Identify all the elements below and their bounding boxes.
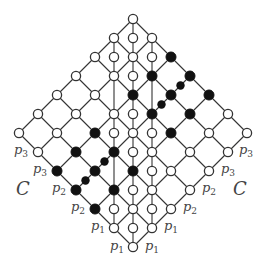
open-node — [147, 147, 156, 156]
point-label: p1 — [164, 218, 178, 235]
open-node — [109, 71, 118, 80]
open-node — [109, 204, 118, 213]
open-node — [147, 166, 156, 175]
open-node — [128, 71, 137, 80]
filled-node — [128, 166, 138, 176]
filled-node — [90, 204, 100, 214]
intermediate-dot — [81, 176, 89, 184]
open-node — [128, 147, 137, 156]
region-label: C — [16, 178, 30, 199]
filled-node — [204, 90, 214, 100]
open-node — [147, 204, 156, 213]
open-node — [33, 109, 42, 118]
lattice-labels: p3p3p2p2p1p1p1p1p2p2p3p3CC — [14, 142, 253, 255]
open-node — [204, 166, 213, 175]
open-node — [109, 109, 118, 118]
open-node — [166, 204, 175, 213]
open-node — [242, 128, 251, 137]
open-node — [128, 185, 137, 194]
open-node — [128, 223, 137, 232]
open-node — [128, 109, 137, 118]
filled-node — [166, 52, 176, 62]
open-node — [223, 109, 232, 118]
filled-node — [109, 147, 119, 157]
open-node — [128, 14, 137, 23]
filled-node — [185, 109, 195, 119]
open-node — [185, 185, 194, 194]
point-label: p3 — [14, 142, 28, 159]
filled-node — [185, 71, 195, 81]
open-node — [71, 109, 80, 118]
point-label: p2 — [202, 180, 216, 197]
point-label: p1 — [110, 238, 124, 255]
open-node — [147, 52, 156, 61]
open-node — [128, 204, 137, 213]
open-node — [128, 52, 137, 61]
region-label: C — [233, 178, 247, 199]
open-node — [90, 90, 99, 99]
lattice-diagram: p3p3p2p2p1p1p1p1p2p2p3p3CC — [0, 0, 263, 270]
open-node — [52, 128, 61, 137]
open-node — [166, 166, 175, 175]
open-node — [109, 52, 118, 61]
filled-node — [71, 147, 81, 157]
filled-node — [109, 185, 119, 195]
filled-node — [147, 109, 157, 119]
open-node — [90, 52, 99, 61]
intermediate-dot — [176, 81, 184, 89]
point-label: p1 — [91, 218, 105, 235]
lattice-svg: p3p3p2p2p1p1p1p1p2p2p3p3CC — [0, 0, 263, 270]
point-label: p2 — [52, 180, 66, 197]
intermediate-dot — [100, 157, 108, 165]
point-label: p3 — [221, 161, 235, 178]
open-node — [147, 223, 156, 232]
open-node — [147, 128, 156, 137]
open-node — [223, 147, 232, 156]
open-node — [204, 128, 213, 137]
open-node — [33, 147, 42, 156]
filled-node — [128, 90, 138, 100]
open-node — [147, 185, 156, 194]
point-label: p3 — [239, 142, 253, 159]
filled-node — [90, 166, 100, 176]
open-node — [14, 128, 23, 137]
open-node — [185, 147, 194, 156]
point-label: p3 — [33, 161, 47, 178]
filled-node — [90, 128, 100, 138]
point-label: p1 — [145, 238, 159, 255]
point-label: p2 — [71, 199, 85, 216]
filled-node — [166, 90, 176, 100]
open-node — [109, 128, 118, 137]
filled-node — [166, 128, 176, 138]
intermediate-dot — [157, 100, 165, 108]
open-node — [109, 223, 118, 232]
open-node — [52, 90, 61, 99]
open-node — [147, 33, 156, 42]
open-node — [128, 242, 137, 251]
open-node — [128, 128, 137, 137]
open-node — [128, 33, 137, 42]
filled-node — [52, 166, 62, 176]
point-label: p2 — [183, 199, 197, 216]
filled-node — [147, 71, 157, 81]
open-node — [71, 71, 80, 80]
open-node — [109, 33, 118, 42]
filled-node — [71, 185, 81, 195]
